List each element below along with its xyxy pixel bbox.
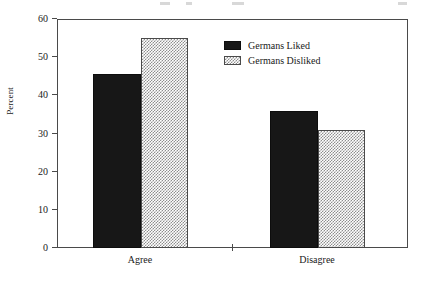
x-axis-label-agree: Agree: [128, 254, 152, 265]
legend-swatch-solid-icon: [224, 41, 241, 50]
y-tick-label: 60: [38, 12, 48, 25]
y-tick-mark: [52, 171, 57, 172]
bar-disagree-germans-liked: [270, 111, 318, 248]
bar-disagree-germans-disliked: [318, 130, 365, 248]
y-axis-title: Percent: [5, 61, 15, 141]
bar-chart: Percent 60 50 40 30 20 10 0 Agree Disagr…: [0, 0, 426, 281]
legend: Germans Liked Germans Disliked: [224, 39, 321, 69]
legend-label: Germans Disliked: [248, 55, 321, 67]
y-tick-mark: [52, 209, 57, 210]
y-tick-label: 10: [38, 203, 48, 216]
y-tick-label: 20: [38, 165, 48, 178]
x-axis-center-tick: [232, 244, 233, 251]
y-tick-label: 50: [38, 50, 48, 63]
legend-item-germans-liked: Germans Liked: [224, 39, 321, 52]
legend-item-germans-disliked: Germans Disliked: [224, 54, 321, 67]
y-tick-label: 30: [38, 127, 48, 140]
y-tick-label: 0: [43, 241, 48, 254]
legend-label: Germans Liked: [248, 40, 310, 52]
legend-swatch-hatch-icon: [224, 56, 241, 65]
y-tick-mark: [52, 94, 57, 95]
y-tick-mark: [52, 133, 57, 134]
y-tick-mark: [52, 18, 57, 19]
bar-agree-germans-liked: [93, 74, 141, 248]
bar-agree-germans-disliked: [141, 38, 188, 248]
y-tick-mark: [52, 247, 57, 248]
x-axis-label-disagree: Disagree: [299, 254, 335, 265]
y-tick-label: 40: [38, 88, 48, 101]
scan-artifact-strip: [0, 0, 426, 9]
y-tick-mark: [52, 56, 57, 57]
